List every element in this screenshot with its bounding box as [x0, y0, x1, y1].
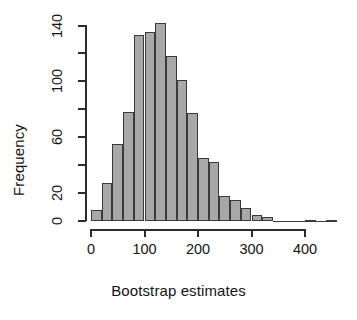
x-axis-tick-label: 400: [285, 241, 325, 257]
histogram-bar: [241, 208, 252, 221]
histogram-bar: [155, 23, 166, 221]
histogram-bar: [112, 144, 123, 221]
y-axis-tick-label: 20: [49, 176, 65, 210]
y-axis-tick-label: 100: [49, 64, 65, 98]
histogram-bar: [123, 112, 134, 221]
histogram-bar: [166, 56, 177, 221]
x-axis-tick-label: 300: [232, 241, 272, 257]
y-axis-tick: [78, 192, 86, 194]
histogram-bar: [198, 158, 209, 221]
x-axis-tick: [251, 229, 253, 237]
y-axis-tick: [78, 220, 86, 222]
histogram-bar: [145, 32, 156, 221]
histogram-bar: [326, 220, 337, 222]
histogram-bar: [134, 35, 145, 221]
y-axis-tick-label: 140: [49, 9, 65, 43]
y-axis-tick: [78, 25, 86, 27]
x-axis-tick-label: 100: [125, 241, 165, 257]
x-axis-tick: [304, 229, 306, 237]
histogram-bar: [305, 220, 316, 222]
y-axis-tick: [78, 80, 86, 82]
histogram-bar: [252, 215, 263, 221]
histogram-bar: [209, 162, 220, 221]
histogram-bar: [219, 196, 230, 221]
histogram-bar: [294, 221, 305, 222]
histogram-bar: [273, 221, 284, 222]
y-axis-tick-label: 60: [49, 120, 65, 154]
histogram-bar: [284, 221, 295, 222]
y-axis-tick: [78, 108, 86, 110]
x-axis-tick: [90, 229, 92, 237]
histogram-bar: [316, 221, 327, 222]
y-axis-tick: [78, 164, 86, 166]
x-axis-tick-label: 0: [71, 241, 111, 257]
histogram-plot: Frequency Bootstrap estimates 0206010014…: [0, 0, 357, 320]
x-axis-tick: [197, 229, 199, 237]
histogram-bars: [0, 0, 357, 320]
y-axis-tick: [78, 136, 86, 138]
x-axis-tick: [144, 229, 146, 237]
histogram-bar: [102, 183, 113, 221]
histogram-bar: [187, 113, 198, 221]
histogram-bar: [91, 210, 102, 221]
x-axis-tick-label: 200: [178, 241, 218, 257]
y-axis-tick: [78, 52, 86, 54]
histogram-bar: [230, 200, 241, 221]
histogram-bar: [177, 80, 188, 221]
histogram-bar: [262, 217, 273, 221]
